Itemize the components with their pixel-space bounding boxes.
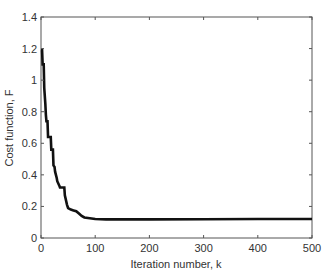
y-tick-label: 0 xyxy=(31,232,37,244)
y-tick-label: 0.2 xyxy=(22,200,37,212)
y-tick-label: 0.4 xyxy=(22,169,37,181)
x-tick-label: 100 xyxy=(86,242,104,254)
x-tick-label: 400 xyxy=(249,242,267,254)
y-tick-label: 1.2 xyxy=(22,43,37,55)
x-axis-label: Iteration number, k xyxy=(130,258,222,270)
x-tick-label: 0 xyxy=(38,242,44,254)
y-tick-label: 1 xyxy=(31,74,37,86)
x-tick-label: 500 xyxy=(303,242,321,254)
y-axis-label: Cost function, F xyxy=(3,89,15,166)
x-tick-label: 300 xyxy=(194,242,212,254)
y-tick-label: 0.6 xyxy=(22,137,37,149)
x-tick-label: 200 xyxy=(140,242,158,254)
y-tick-label: 1.4 xyxy=(22,11,37,23)
cost-function-chart: 00.20.40.60.811.21.4 0100200300400500 It… xyxy=(0,0,330,272)
y-tick-label: 0.8 xyxy=(22,106,37,118)
